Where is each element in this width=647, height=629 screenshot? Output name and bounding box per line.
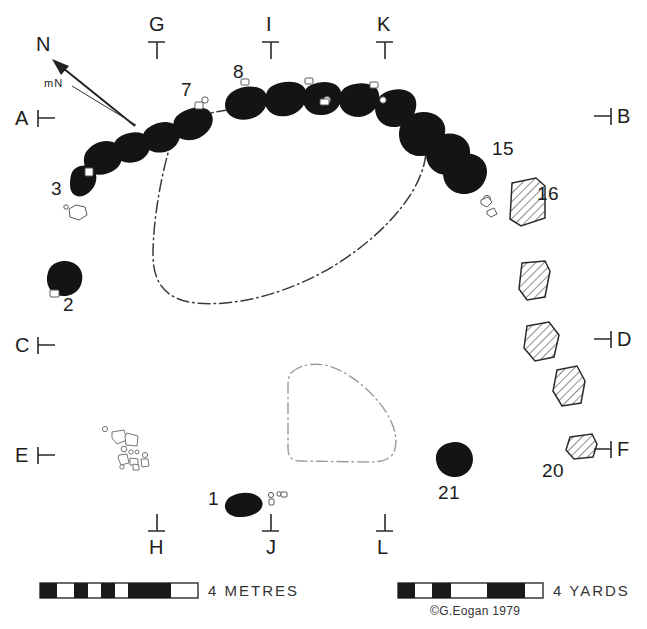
hatched-stone-17 [524, 322, 559, 361]
scale-label-yards: 4 YARDS [553, 583, 630, 598]
socket-c [202, 97, 208, 103]
scattered-stones-group [102, 426, 149, 470]
feature-boundary-lower [288, 364, 396, 462]
stone-label-20: 20 [542, 461, 564, 480]
stone-label-3: 3 [51, 179, 62, 198]
grid-tick-D [594, 331, 611, 348]
orthostat-8 [225, 87, 267, 120]
grid-label-K: K [377, 14, 391, 34]
hatched-stone-19 [553, 366, 585, 406]
scatter-7 [118, 454, 129, 465]
orthostat-9 [265, 82, 307, 116]
scatter-3 [125, 433, 138, 446]
scatter-6 [135, 450, 139, 454]
scatter-10 [141, 459, 149, 467]
credit-label: ©G.Eogan 1979 [430, 605, 520, 617]
grid-label-G: G [149, 14, 165, 34]
site-plan-figure: N mN A C E B D F G I K H J L 1 2 3 7 8 1… [0, 0, 647, 629]
stone-label-2: 2 [63, 295, 74, 314]
socket-i [380, 97, 386, 103]
stone-label-7: 7 [181, 80, 192, 99]
scatter-5 [129, 450, 133, 454]
grid-tick-B [594, 108, 611, 125]
socket-near-15-c [487, 208, 497, 217]
stone-label-1: 1 [208, 489, 219, 508]
grid-label-J: J [266, 537, 277, 557]
orthostat-1 [225, 493, 263, 517]
grid-tick-G [148, 42, 165, 59]
grid-label-F: F [617, 439, 630, 459]
socket-near-2 [50, 290, 59, 297]
socket-h [370, 82, 378, 88]
stone-label-15: 15 [492, 139, 514, 158]
socket-g [320, 99, 329, 105]
grid-label-E: E [15, 445, 29, 465]
grid-tick-L [376, 514, 393, 531]
site-plan-canvas [0, 0, 647, 629]
scatter-1 [102, 426, 107, 431]
scatter-12 [133, 464, 139, 470]
grid-label-B: B [617, 106, 631, 126]
grid-tick-E [38, 447, 55, 464]
socket-b [195, 102, 203, 109]
grid-tick-A [38, 110, 55, 127]
scale-bar-metres [40, 583, 198, 598]
hatched-stone-group [510, 178, 597, 459]
grid-label-C: C [15, 335, 30, 355]
stone-label-16: 16 [537, 184, 559, 203]
north-arrow [52, 59, 136, 126]
scatter-11 [120, 465, 124, 469]
north-label: N [36, 34, 50, 54]
scale-label-metres: 4 METRES [208, 583, 299, 598]
scatter-4 [121, 446, 127, 452]
orthostat-7 [173, 108, 213, 141]
grid-label-I: I [266, 14, 272, 34]
grid-label-L: L [377, 537, 389, 557]
grid-tick-C [38, 337, 55, 354]
magnetic-north-line [72, 86, 136, 125]
stone-label-21: 21 [438, 483, 460, 502]
grid-label-H: H [149, 537, 164, 557]
magnetic-north-label: mN [44, 78, 63, 89]
grid-label-A: A [15, 108, 29, 128]
socket-dot-3 [64, 205, 68, 209]
scatter-9 [142, 452, 147, 457]
stone-label-8: 8 [233, 62, 244, 81]
socket-a [85, 168, 93, 176]
hatched-stone-18 [519, 261, 550, 300]
socket-near-1-d [281, 492, 287, 497]
grid-tick-I [262, 42, 279, 59]
socket-near-1-a [268, 492, 273, 497]
grid-label-D: D [617, 329, 632, 349]
hatched-stone-20 [566, 434, 597, 459]
grid-tick-K [376, 42, 393, 59]
orthostat-group [47, 82, 487, 517]
scale-bar-yards [398, 583, 543, 598]
socket-near-1-c [269, 499, 274, 505]
grid-tick-H [148, 514, 165, 531]
grid-tick-J [262, 514, 279, 531]
socket-e [305, 78, 313, 84]
orthostat-21 [436, 442, 473, 477]
socket-near-3 [69, 205, 87, 220]
